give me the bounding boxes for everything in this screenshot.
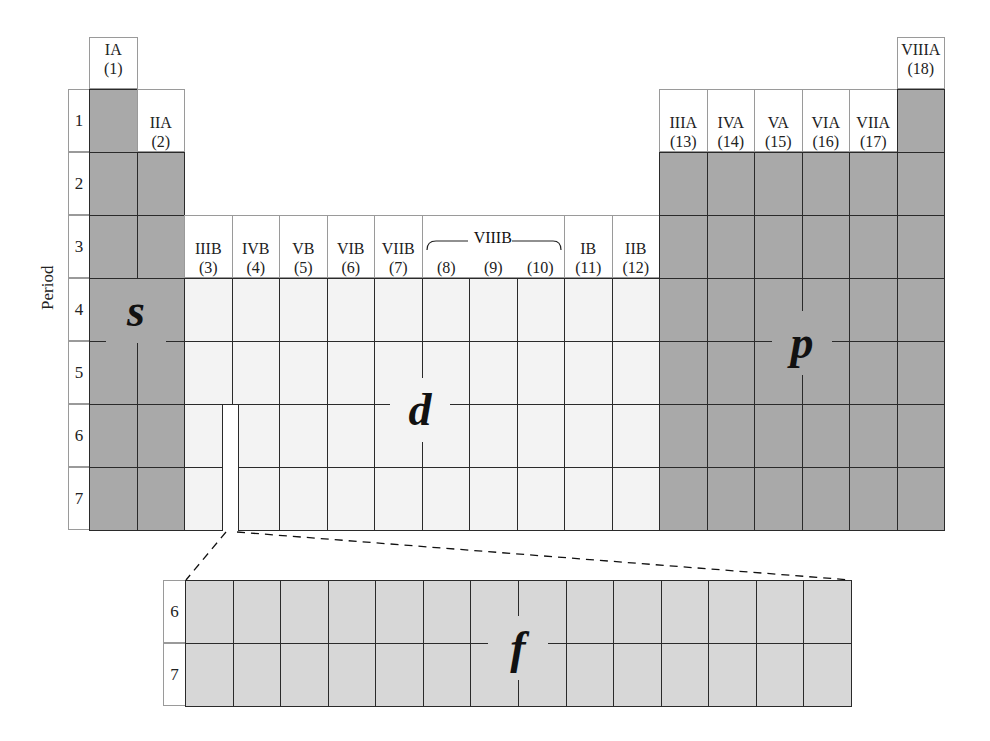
s-block-cell (89, 215, 138, 279)
p-block-cell (849, 467, 898, 531)
period-label-1: 1 (68, 89, 90, 152)
p-block-cell (897, 278, 946, 342)
group-name: IIB (613, 239, 660, 258)
group-name: IVA (708, 113, 755, 132)
group-header-13: IIIA(13) (659, 89, 708, 152)
group-header-3: IIIB(3) (184, 215, 233, 278)
d-block-cell (327, 404, 376, 468)
d-block-cell (279, 404, 328, 468)
p-block-cell (897, 467, 946, 531)
s-block-cell (137, 152, 186, 216)
group-header-14: IVA(14) (707, 89, 756, 152)
d-block-cell (422, 467, 471, 531)
f-block-cell (280, 580, 329, 644)
d-block-cell (564, 404, 613, 468)
d-block-cell (184, 278, 233, 342)
f-block-cell (233, 643, 282, 707)
f-period-label-7: 7 (163, 643, 186, 706)
p-block-cell (659, 404, 708, 468)
period-label-6: 6 (68, 404, 90, 467)
group-header-1: IA(1) (89, 37, 138, 89)
p-block-cell (707, 215, 756, 279)
p-block-cell (707, 152, 756, 216)
s-block-cell (137, 215, 186, 279)
group-number: (9) (469, 258, 518, 277)
d-block-cell (422, 278, 471, 342)
d-block-cell (469, 467, 518, 531)
d-block-cell (184, 341, 233, 405)
group-header-6: VIB(6) (327, 215, 376, 278)
group-header-18: VIIIA(18) (897, 37, 946, 89)
group-name: IVB (233, 239, 280, 258)
d-block-cell (612, 341, 661, 405)
p-block-cell (802, 215, 851, 279)
p-block-cell (659, 215, 708, 279)
d-block-cell (469, 278, 518, 342)
group-number: (1) (90, 59, 137, 78)
d-block-cell (374, 467, 423, 531)
group-header-17: VIIA(17) (849, 89, 898, 152)
group-header-11: IB(11) (564, 215, 613, 278)
group-number: (12) (613, 258, 660, 277)
d-block-cell (327, 467, 376, 531)
group-name: VIIB (375, 239, 422, 258)
p-block-cell (897, 404, 946, 468)
s-block-cell (89, 341, 138, 405)
s-block-cell (89, 404, 138, 468)
p-block-cell (707, 278, 756, 342)
d-block-cell (327, 341, 376, 405)
d-block-cell (564, 341, 613, 405)
d-block-cell (469, 341, 518, 405)
d-block-cell (232, 278, 281, 342)
f-block-cell (708, 643, 757, 707)
f-block-cell (803, 580, 852, 644)
f-block-cell (185, 580, 234, 644)
p-block-cell (659, 341, 708, 405)
f-block-cell (185, 643, 234, 707)
p-block-cell (802, 152, 851, 216)
f-block-cell (423, 643, 472, 707)
group-name: VIIA (850, 113, 897, 132)
f-block-cell (423, 580, 472, 644)
p-block-cell (897, 152, 946, 216)
p-block-cell (754, 215, 803, 279)
f-block-cell (661, 643, 710, 707)
group-number: (7) (375, 258, 422, 277)
f-block-cell (661, 580, 710, 644)
s-block-cell (89, 89, 138, 153)
group-number: (6) (328, 258, 375, 277)
group-number: (17) (850, 132, 897, 151)
p-block-cell (849, 404, 898, 468)
s-block-cell (137, 341, 186, 405)
p-block-cell (707, 467, 756, 531)
d-block-cell (469, 404, 518, 468)
f-block-cell (328, 580, 377, 644)
f-block-cell (566, 643, 615, 707)
f-block-cell (803, 643, 852, 707)
d-block-cell (517, 341, 566, 405)
p-block-cell (754, 467, 803, 531)
f-block-cell (566, 580, 615, 644)
group-number: (13) (660, 132, 707, 151)
d-block-cell (184, 467, 223, 531)
d-block-cell (517, 404, 566, 468)
period-axis-label: Period (38, 266, 58, 310)
group-header-4: IVB(4) (232, 215, 281, 278)
p-block-cell (897, 341, 946, 405)
d-block-cell (564, 467, 613, 531)
s-block-cell (89, 467, 138, 531)
group-header-5: VB(5) (279, 215, 328, 278)
group-number: (11) (565, 258, 612, 277)
f-block-cell (375, 580, 424, 644)
d-block-cell (612, 467, 661, 531)
group-number: (10) (517, 258, 565, 277)
group-name: VIB (328, 239, 375, 258)
group-number: (15) (755, 132, 802, 151)
d-block-cell (279, 341, 328, 405)
f-block-cell (280, 643, 329, 707)
d-block-cell (184, 404, 223, 468)
p-block-cell (707, 404, 756, 468)
p-block-cell (897, 215, 946, 279)
d-block-cell (612, 278, 661, 342)
p-block-cell (849, 152, 898, 216)
